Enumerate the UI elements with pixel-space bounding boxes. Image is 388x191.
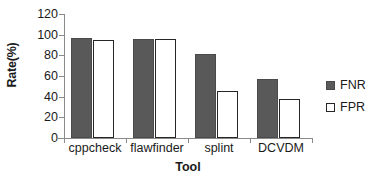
- bar-flawfinder-fpr: [155, 39, 176, 138]
- bars-layer: [64, 14, 312, 138]
- y-axis-title: Rate(%): [5, 35, 19, 95]
- bar-splint-fnr: [195, 54, 216, 138]
- bar-splint-fpr: [217, 91, 238, 138]
- x-axis-category-label: cppcheck: [64, 141, 126, 156]
- y-axis-tick-label: 60: [18, 70, 58, 82]
- legend-label: FPR: [340, 101, 365, 114]
- x-axis-category-labels: cppcheckflawfindersplintDCVDM: [64, 141, 312, 159]
- y-axis-tick-label: 100: [18, 29, 58, 41]
- y-axis-tick-label: 80: [18, 49, 58, 61]
- bar-cppcheck-fnr: [71, 38, 92, 138]
- y-axis-tick-label: 0: [18, 132, 58, 144]
- legend-label: FNR: [340, 79, 366, 92]
- bar-dcvdm-fpr: [279, 99, 300, 138]
- x-axis-category-label: DCVDM: [250, 141, 312, 156]
- x-axis-title: Tool: [64, 160, 312, 174]
- bar-cppcheck-fpr: [93, 40, 114, 138]
- y-axis-tick-label: 120: [18, 8, 58, 20]
- y-axis-tick-label: 20: [18, 111, 58, 123]
- legend-swatch-icon: [326, 81, 335, 90]
- legend-item-fnr[interactable]: FNR: [326, 74, 366, 96]
- y-axis-tick-labels: 020406080100120: [18, 14, 58, 138]
- plot-area: [64, 14, 312, 138]
- bar-dcvdm-fnr: [257, 79, 278, 138]
- y-axis-tick-label: 40: [18, 91, 58, 103]
- legend-item-fpr[interactable]: FPR: [326, 96, 366, 118]
- x-axis-tick: [312, 138, 313, 143]
- x-axis-category-label: flawfinder: [126, 141, 188, 156]
- chart-legend: FNRFPR: [326, 74, 366, 118]
- x-axis-category-label: splint: [188, 141, 250, 156]
- bar-flawfinder-fnr: [133, 39, 154, 138]
- bar-chart: Rate(%) 020406080100120 cppcheckflawfind…: [0, 0, 388, 191]
- legend-swatch-icon: [326, 103, 335, 112]
